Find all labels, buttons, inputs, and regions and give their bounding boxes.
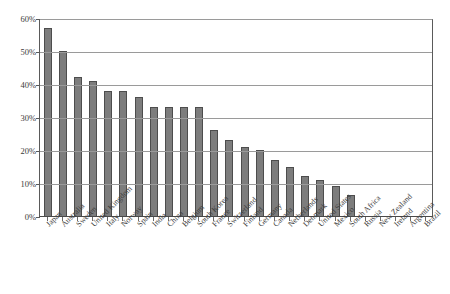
x-axis-tick-mark xyxy=(335,217,336,221)
bar xyxy=(104,91,112,216)
y-axis-tick-label: 40% xyxy=(2,81,36,90)
gridline xyxy=(40,85,432,86)
x-axis-tick-mark xyxy=(62,217,63,221)
y-axis-tick-mark xyxy=(36,19,40,20)
plot-area xyxy=(39,19,433,217)
x-axis-tick-mark xyxy=(198,217,199,221)
y-axis-tick-label: 50% xyxy=(2,48,36,57)
y-axis-tick-mark xyxy=(36,217,40,218)
y-axis-tick-mark xyxy=(36,184,40,185)
gridline xyxy=(40,118,432,119)
bar xyxy=(59,51,67,216)
y-axis-tick-label: 10% xyxy=(2,180,36,189)
x-axis-tick-mark xyxy=(92,217,93,221)
y-axis-tick-label: 20% xyxy=(2,147,36,156)
gridline xyxy=(40,52,432,53)
y-axis-tick-mark xyxy=(36,151,40,152)
bar xyxy=(89,81,97,216)
x-axis-tick-mark xyxy=(425,217,426,221)
x-axis-tick-mark xyxy=(213,217,214,221)
x-axis-tick-mark xyxy=(319,217,320,221)
gridline xyxy=(40,151,432,152)
bar xyxy=(301,176,309,216)
gridline xyxy=(40,19,432,20)
gridline xyxy=(40,184,432,185)
x-axis-tick-mark xyxy=(107,217,108,221)
bar xyxy=(210,130,218,216)
y-axis-tick-label: 60% xyxy=(2,15,36,24)
x-axis-tick-mark xyxy=(274,217,275,221)
x-axis-tick-mark xyxy=(304,217,305,221)
bar-chart: 0%10%20%30%40%50%60% JapanAustraliaSwede… xyxy=(0,0,450,294)
y-axis-tick-mark xyxy=(36,85,40,86)
bar xyxy=(135,97,143,216)
x-axis-tick-mark xyxy=(77,217,78,221)
bar xyxy=(271,160,279,216)
bar xyxy=(241,147,249,216)
bar xyxy=(332,186,340,216)
y-axis-tick-label: 30% xyxy=(2,114,36,123)
x-axis-tick-mark xyxy=(168,217,169,221)
bar xyxy=(256,150,264,216)
x-axis-tick-mark xyxy=(410,217,411,221)
bar xyxy=(74,77,82,216)
bar xyxy=(347,195,355,216)
bar xyxy=(119,91,127,216)
bar xyxy=(286,167,294,217)
bar xyxy=(195,107,203,216)
x-axis-tick-mark xyxy=(244,217,245,221)
x-axis-tick-mark xyxy=(153,217,154,221)
bar xyxy=(150,107,158,216)
bar xyxy=(316,180,324,216)
y-axis: 0%10%20%30%40%50%60% xyxy=(0,0,36,294)
bar xyxy=(180,107,188,216)
x-axis-tick-mark xyxy=(365,217,366,221)
x-axis-tick-mark xyxy=(122,217,123,221)
x-axis-tick-mark xyxy=(47,217,48,221)
x-axis-tick-mark xyxy=(228,217,229,221)
y-axis-tick-mark xyxy=(36,118,40,119)
x-axis-tick-mark xyxy=(395,217,396,221)
x-axis-tick-mark xyxy=(259,217,260,221)
x-axis-tick-mark xyxy=(138,217,139,221)
y-axis-tick-mark xyxy=(36,52,40,53)
x-axis-tick-mark xyxy=(289,217,290,221)
y-axis-tick-label: 0% xyxy=(2,213,36,222)
x-axis-tick-mark xyxy=(380,217,381,221)
x-axis-tick-mark xyxy=(183,217,184,221)
x-axis-tick-mark xyxy=(350,217,351,221)
bar xyxy=(44,28,52,216)
bar xyxy=(165,107,173,216)
